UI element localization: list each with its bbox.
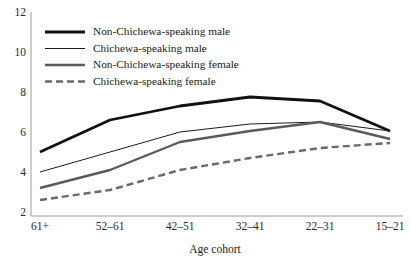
x-axis-tick-label: 61+: [31, 220, 49, 232]
series-line-3: [40, 143, 390, 200]
y-axis-tick-label: 12: [15, 6, 27, 18]
y-axis-tick-label: 2: [20, 206, 26, 218]
x-axis-tick-label: 22–31: [306, 220, 335, 232]
y-axis-tick-label: 6: [20, 126, 26, 138]
line-chart: 2468101261+52–6142–5132–4122–3115–21Age …: [0, 0, 411, 269]
y-axis-tick-label: 10: [15, 46, 27, 58]
legend-label-3: Chichewa-speaking female: [93, 75, 216, 87]
x-axis-title: Age cohort: [189, 243, 241, 256]
legend-label-2: Non-Chichewa-speaking female: [93, 58, 239, 70]
legend-label-1: Chichewa-speaking male: [93, 42, 207, 54]
y-axis-tick-label: 4: [20, 166, 26, 178]
x-axis-tick-label: 15–21: [376, 220, 405, 232]
y-axis-tick-label: 8: [20, 86, 26, 98]
x-axis-tick-label: 32–41: [236, 220, 265, 232]
x-axis-tick-label: 42–51: [166, 220, 195, 232]
series-line-2: [40, 122, 390, 188]
x-axis-tick-label: 52–61: [96, 220, 125, 232]
chart-canvas: 2468101261+52–6142–5132–4122–3115–21Age …: [0, 0, 411, 269]
legend-label-0: Non-Chichewa-speaking male: [93, 25, 230, 37]
